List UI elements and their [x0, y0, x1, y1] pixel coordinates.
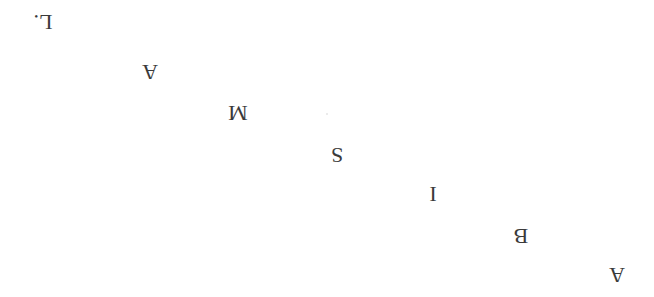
letter-i: I [429, 183, 436, 205]
speck-mark [326, 113, 328, 115]
letter-s: S [331, 144, 343, 166]
letter-a-2: A [142, 61, 158, 83]
letter-l-period: L. [34, 11, 53, 33]
letter-a-1: A [609, 264, 625, 286]
diagonal-letter-canvas: A B I S M A L. [0, 0, 654, 297]
letter-m: M [228, 102, 248, 124]
letter-b: B [514, 225, 529, 247]
